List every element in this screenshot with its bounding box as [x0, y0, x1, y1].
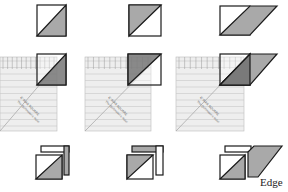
ruler-group-2: 6" BIAS SQUAREThe Quiltmaker's Ruler	[85, 54, 161, 131]
bottom-pieces-3	[220, 146, 282, 179]
bottom-pieces-1	[36, 146, 69, 179]
edge-label: Edge	[260, 176, 283, 188]
top-square-2	[129, 5, 161, 36]
bottom-pieces-2	[127, 146, 163, 179]
diagram-canvas: 6" BIAS SQUAREThe Quiltmaker's Ruler6" B…	[0, 0, 288, 192]
ruler-group-3: 6" BIAS SQUAREThe Quiltmaker's Ruler	[176, 54, 277, 131]
top-square-3	[220, 6, 277, 35]
top-square-1	[37, 5, 66, 36]
ruler-group-1: 6" BIAS SQUAREThe Quiltmaker's Ruler	[0, 54, 66, 131]
